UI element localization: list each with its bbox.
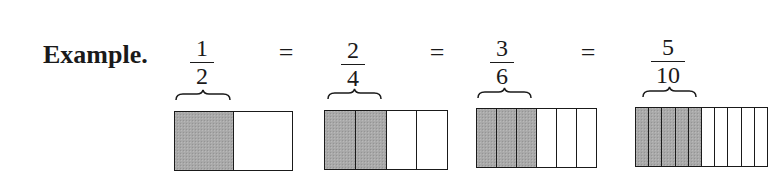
fraction-numerator: 2 [341,38,365,62]
fraction-denominator: 2 [190,64,214,88]
strip-cell [386,111,417,169]
fraction-numerator: 3 [490,36,514,60]
strip-cell-shaded [175,112,233,170]
equals-sign: = [578,40,598,66]
fraction-three-sixths: 3 6 [490,36,514,88]
strip-cell [714,108,727,166]
strip-cell [701,108,714,166]
strip-cell-shaded [355,111,386,169]
strip-cell-shaded [496,109,516,167]
strip-cell-shaded [516,109,536,167]
strip-cell [576,109,596,167]
brace-icon [175,89,231,101]
fraction-denominator: 10 [651,63,685,87]
strip-cell [416,111,447,169]
brace-icon [642,86,697,98]
equals-sign: = [427,40,447,66]
fraction-denominator: 4 [341,66,365,90]
strip-cell [754,108,767,166]
equals-sign: = [276,40,296,66]
fraction-strip-halves [174,111,293,171]
fraction-numerator: 1 [190,36,214,60]
brace-icon [327,88,382,100]
fraction-two-fourths: 2 4 [341,38,365,90]
fraction-denominator: 6 [490,64,514,88]
fraction-strip-sixths [476,108,597,168]
strip-cell-shaded [325,111,355,169]
fraction-five-tenths: 5 10 [651,35,685,87]
strip-cell-shaded [477,109,496,167]
strip-cell [233,112,292,170]
strip-cell [727,108,740,166]
brace-icon [477,87,532,99]
strip-cell [556,109,576,167]
fraction-one-half: 1 2 [190,36,214,88]
strip-cell-shaded [661,108,674,166]
strip-cell [536,109,556,167]
example-label: Example. [43,40,148,70]
fraction-numerator: 5 [651,35,685,59]
strip-cell-shaded [675,108,688,166]
strip-cell-shaded [648,108,661,166]
strip-cell-shaded [636,108,648,166]
strip-cell [741,108,754,166]
fraction-strip-tenths [635,107,768,167]
fraction-strip-fourths [324,110,448,170]
strip-cell-shaded [688,108,701,166]
